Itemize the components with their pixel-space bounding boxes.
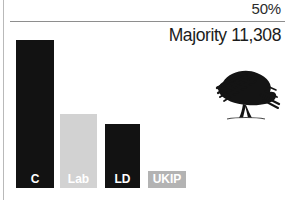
bar-lab[interactable]: Lab — [60, 114, 97, 188]
bar-ukip[interactable]: UKIP — [148, 171, 186, 188]
bar-label-c: C — [16, 173, 54, 186]
election-bar-chart: 50% Majority 11,308 CLabLDUKIP — [0, 0, 285, 200]
bar-label-ukip: UKIP — [148, 173, 186, 186]
bar-label-lab: Lab — [60, 173, 97, 186]
conservative-tree-logo — [207, 64, 281, 122]
bar-c[interactable]: C — [16, 40, 54, 188]
bar-ld[interactable]: LD — [105, 124, 140, 188]
bar-label-ld: LD — [105, 173, 140, 186]
